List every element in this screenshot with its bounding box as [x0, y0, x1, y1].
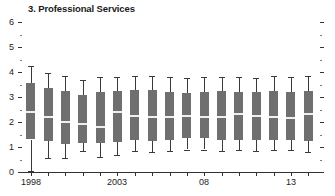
box-iqr: [286, 92, 295, 140]
y-tick-minor: [20, 35, 22, 36]
y-tick-minor: [20, 110, 22, 111]
x-tick: [239, 173, 240, 176]
y-tick-major: [18, 97, 22, 98]
x-tick: [31, 173, 32, 176]
whisker-upper: [117, 77, 118, 91]
whisker-upper: [135, 76, 136, 90]
x-axis-line: [22, 172, 324, 173]
right-tick-major: [320, 97, 324, 98]
y-tick-label: 6: [0, 17, 14, 27]
whisker-upper: [152, 76, 153, 90]
whisker-upper: [239, 77, 240, 92]
whisker-lower: [65, 143, 66, 158]
median-line: [26, 111, 35, 113]
x-tick: [100, 173, 101, 176]
boxplot-plot-area: 0123456 199820030813: [0, 0, 335, 196]
median-line: [130, 115, 139, 117]
box-iqr: [78, 95, 87, 143]
y-tick-major: [18, 147, 22, 148]
median-line: [252, 115, 261, 117]
whisker-lower: [100, 143, 101, 157]
x-tick-label: 08: [199, 177, 209, 187]
whisker-cap-lower: [28, 171, 34, 172]
right-tick-major: [320, 147, 324, 148]
box-iqr: [234, 92, 243, 140]
y-tick-minor: [20, 85, 22, 86]
whisker-upper: [170, 77, 171, 92]
median-line: [44, 116, 53, 118]
whisker-lower: [135, 140, 136, 151]
x-tick: [308, 173, 309, 176]
whisker-upper: [48, 73, 49, 88]
median-line: [148, 116, 157, 118]
x-tick: [222, 173, 223, 176]
whisker-lower: [83, 142, 84, 151]
whisker-cap-lower: [132, 151, 138, 152]
whisker-upper: [308, 76, 309, 91]
whisker-cap-upper: [271, 76, 277, 77]
whisker-lower: [31, 140, 32, 171]
whisker-cap-upper: [305, 76, 311, 77]
right-tick-minor: [320, 35, 322, 36]
x-tick: [48, 173, 49, 176]
whisker-upper: [100, 77, 101, 92]
median-line: [234, 113, 243, 115]
median-line: [304, 113, 313, 115]
whisker-upper: [204, 77, 205, 92]
y-tick-label: 5: [0, 42, 14, 52]
whisker-lower: [48, 141, 49, 159]
x-tick: [152, 173, 153, 176]
chart-root: 3. Professional Services 0123456 1998200…: [0, 0, 335, 196]
whisker-upper: [187, 78, 188, 93]
y-tick-major: [18, 22, 22, 23]
whisker-cap-lower: [167, 151, 173, 152]
whisker-lower: [170, 140, 171, 151]
y-tick-label: 1: [0, 142, 14, 152]
whisker-cap-lower: [114, 155, 120, 156]
median-line: [182, 115, 191, 117]
box-iqr: [44, 88, 53, 141]
median-line: [200, 116, 209, 118]
whisker-cap-lower: [305, 152, 311, 153]
right-tick-minor: [320, 110, 322, 111]
right-tick-minor: [320, 60, 322, 61]
x-tick: [256, 173, 257, 176]
whisker-upper: [83, 80, 84, 95]
right-tick-major: [320, 22, 324, 23]
whisker-cap-upper: [28, 66, 34, 67]
x-tick: [170, 173, 171, 176]
whisker-upper: [222, 77, 223, 91]
whisker-cap-upper: [288, 77, 294, 78]
box-iqr: [200, 92, 209, 138]
right-tick-minor: [320, 135, 322, 136]
whisker-upper: [31, 66, 32, 84]
x-tick-label: 13: [286, 177, 296, 187]
x-tick: [274, 173, 275, 176]
whisker-cap-lower: [288, 150, 294, 151]
right-tick-major: [320, 122, 324, 123]
whisker-lower: [152, 141, 153, 152]
right-tick-major: [320, 72, 324, 73]
whisker-cap-lower: [80, 151, 86, 152]
whisker-cap-upper: [184, 78, 190, 79]
median-line: [217, 116, 226, 118]
box-iqr: [96, 92, 105, 143]
whisker-cap-lower: [271, 150, 277, 151]
median-line: [78, 123, 87, 125]
right-tick-minor: [320, 85, 322, 86]
whisker-cap-lower: [62, 158, 68, 159]
y-tick-minor: [20, 160, 22, 161]
median-line: [165, 116, 174, 118]
x-tick: [187, 173, 188, 176]
whisker-cap-upper: [219, 77, 225, 78]
x-tick: [65, 173, 66, 176]
y-tick-major: [18, 72, 22, 73]
whisker-lower: [187, 138, 188, 149]
whisker-cap-lower: [184, 150, 190, 151]
whisker-cap-upper: [97, 77, 103, 78]
x-tick: [83, 173, 84, 176]
right-tick-major: [320, 47, 324, 48]
whisker-cap-upper: [167, 77, 173, 78]
y-tick-minor: [20, 135, 22, 136]
right-tick-minor: [320, 160, 322, 161]
